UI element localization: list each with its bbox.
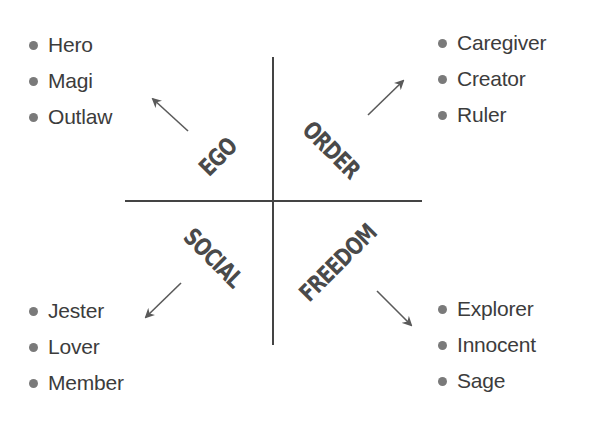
list-item: Hero — [27, 27, 112, 63]
list-item: Explorer — [436, 291, 536, 327]
ego-arrow-icon — [153, 99, 188, 131]
order-arrow-icon — [368, 81, 403, 115]
list-item: Caregiver — [436, 25, 546, 61]
bullet-icon — [438, 75, 447, 84]
list-item: Magi — [27, 63, 112, 99]
bullet-icon — [438, 39, 447, 48]
ego-archetype-list: Hero Magi Outlaw — [27, 27, 112, 135]
bullet-icon — [438, 305, 447, 314]
list-item: Sage — [436, 363, 536, 399]
bullet-icon — [29, 77, 38, 86]
list-item: Lover — [27, 329, 124, 365]
bullet-icon — [29, 307, 38, 316]
list-item: Member — [27, 365, 124, 401]
bullet-icon — [438, 341, 447, 350]
bullet-icon — [29, 379, 38, 388]
list-item: Ruler — [436, 97, 546, 133]
bullet-icon — [29, 113, 38, 122]
bullet-icon — [29, 343, 38, 352]
social-arrow-icon — [146, 283, 181, 317]
list-item: Innocent — [436, 327, 536, 363]
list-item: Creator — [436, 61, 546, 97]
bullet-icon — [438, 377, 447, 386]
list-item: Jester — [27, 293, 124, 329]
list-item: Outlaw — [27, 99, 112, 135]
social-archetype-list: Jester Lover Member — [27, 293, 124, 401]
freedom-archetype-list: Explorer Innocent Sage — [436, 291, 536, 399]
freedom-arrow-icon — [377, 291, 411, 325]
bullet-icon — [29, 41, 38, 50]
order-archetype-list: Caregiver Creator Ruler — [436, 25, 546, 133]
bullet-icon — [438, 111, 447, 120]
